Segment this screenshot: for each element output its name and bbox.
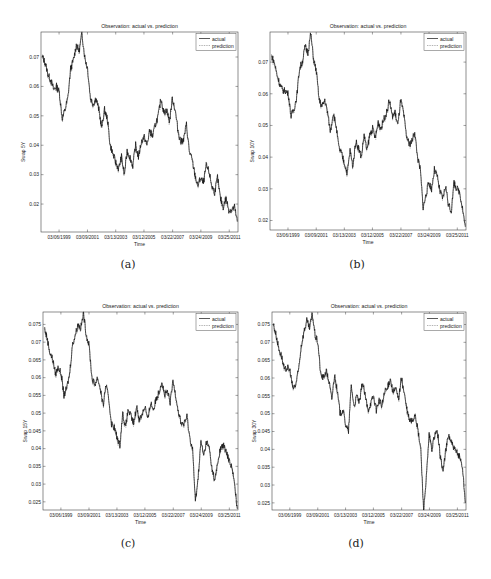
y-tick-label: 0.07: [29, 54, 39, 60]
x-tick-label: 03/22/2007: [390, 513, 413, 518]
y-tick-label: 0.05: [29, 113, 39, 119]
y-tick-label: 0.07: [260, 339, 270, 345]
series-prediction: [271, 34, 465, 226]
chart-b: Observation: actual vs. prediction0.020.…: [245, 0, 491, 250]
y-tick-label: 0.02: [258, 217, 268, 223]
plot-area: [270, 32, 466, 230]
y-tick-label: 0.06: [31, 374, 41, 380]
legend-actual-label: actual: [440, 316, 453, 322]
x-tick-label: 03/13/2003: [334, 513, 357, 518]
y-axis-label: Swap 30Y: [251, 419, 257, 442]
x-tick-label: 03/24/2009: [190, 513, 213, 518]
y-tick-label: 0.05: [260, 410, 270, 416]
y-tick-label: 0.075: [257, 321, 270, 327]
x-tick-label: 03/24/2009: [418, 233, 441, 238]
y-tick-label: 0.045: [28, 428, 41, 434]
x-tick-label: 03/06/1999: [278, 513, 301, 518]
legend-actual-label: actual: [440, 36, 453, 42]
y-tick-label: 0.025: [28, 499, 41, 505]
y-tick-label: 0.06: [29, 83, 39, 89]
x-tick-label: 03/09/2001: [76, 235, 99, 240]
legend: actualprediction: [424, 34, 464, 51]
x-axis-label: Time: [363, 239, 374, 245]
y-axis-label: Swap 15Y: [22, 419, 28, 442]
x-tick-label: 03/12/2005: [362, 513, 385, 518]
chart-title: Observation: actual vs. prediction: [102, 303, 179, 309]
plot-area: [41, 32, 238, 232]
chart-title: Observation: actual vs. prediction: [330, 23, 407, 29]
y-tick-label: 0.02: [29, 201, 39, 207]
x-tick-label: 03/25/2011: [218, 235, 241, 240]
x-tick-label: 03/25/2011: [446, 233, 469, 238]
x-tick-label: 03/06/1999: [49, 513, 72, 518]
x-tick-label: 03/09/2001: [305, 233, 328, 238]
y-tick-label: 0.06: [258, 91, 268, 97]
x-tick-label: 03/13/2003: [333, 233, 356, 238]
x-tick-label: 03/12/2005: [133, 513, 156, 518]
y-tick-label: 0.075: [28, 321, 41, 327]
y-tick-label: 0.04: [29, 142, 39, 148]
y-axis-label: Swap 5Y: [20, 141, 26, 162]
y-tick-label: 0.045: [257, 428, 270, 434]
legend-prediction-label: prediction: [440, 323, 462, 329]
series-actual: [42, 32, 237, 222]
plot-area: [43, 312, 238, 510]
y-tick-label: 0.06: [260, 375, 270, 381]
y-tick-label: 0.065: [257, 357, 270, 363]
y-tick-label: 0.055: [28, 392, 41, 398]
legend-prediction-label: prediction: [212, 323, 234, 329]
caption-c: (c): [121, 537, 136, 550]
series-actual: [271, 33, 465, 227]
caption-d: (d): [348, 537, 364, 550]
x-tick-label: 03/22/2007: [161, 235, 184, 240]
x-tick-label: 03/25/2011: [218, 513, 241, 518]
legend: actualprediction: [196, 314, 236, 331]
y-tick-label: 0.025: [257, 500, 270, 506]
y-tick-label: 0.03: [260, 482, 270, 488]
legend-prediction-label: prediction: [440, 43, 462, 49]
y-tick-label: 0.035: [28, 463, 41, 469]
series-actual: [44, 312, 237, 509]
x-tick-label: 03/12/2005: [132, 235, 155, 240]
y-tick-label: 0.04: [31, 445, 41, 451]
x-axis-label: Time: [364, 519, 375, 525]
legend-prediction-label: prediction: [212, 43, 234, 49]
x-axis-label: Time: [135, 519, 146, 525]
caption-b: (b): [349, 258, 365, 271]
x-tick-label: 03/22/2007: [162, 513, 185, 518]
y-tick-label: 0.035: [257, 464, 270, 470]
y-axis-label: Swap 10Y: [249, 139, 255, 162]
y-tick-label: 0.03: [29, 171, 39, 177]
y-tick-label: 0.03: [31, 481, 41, 487]
x-tick-label: 03/13/2003: [104, 235, 127, 240]
x-tick-label: 03/22/2007: [389, 233, 412, 238]
y-tick-label: 0.05: [258, 122, 268, 128]
x-axis-label: Time: [134, 241, 145, 247]
legend-actual-label: actual: [212, 36, 225, 42]
series-prediction: [44, 311, 237, 508]
x-tick-label: 03/09/2001: [306, 513, 329, 518]
y-tick-label: 0.07: [31, 339, 41, 345]
series-prediction: [42, 31, 237, 221]
x-tick-label: 03/13/2003: [105, 513, 128, 518]
caption-a: (a): [120, 258, 135, 271]
x-tick-label: 03/24/2009: [418, 513, 441, 518]
y-tick-label: 0.04: [260, 446, 270, 452]
series-actual: [273, 313, 465, 511]
chart-title: Observation: actual vs. prediction: [331, 303, 408, 309]
chart-a: Observation: actual vs. prediction0.020.…: [0, 0, 245, 250]
y-tick-label: 0.04: [258, 154, 268, 160]
x-tick-label: 03/24/2009: [189, 235, 212, 240]
chart-c: Observation: actual vs. prediction0.0250…: [0, 290, 245, 560]
x-tick-label: 03/06/1999: [48, 235, 71, 240]
x-tick-label: 03/09/2001: [77, 513, 100, 518]
chart-d: Observation: actual vs. prediction0.0250…: [245, 290, 491, 560]
x-tick-label: 03/12/2005: [361, 233, 384, 238]
y-tick-label: 0.05: [31, 410, 41, 416]
x-tick-label: 03/06/1999: [276, 233, 299, 238]
legend: actualprediction: [424, 314, 464, 331]
y-tick-label: 0.03: [258, 186, 268, 192]
y-tick-label: 0.07: [258, 59, 268, 65]
y-tick-label: 0.055: [257, 393, 270, 399]
y-tick-label: 0.065: [28, 357, 41, 363]
